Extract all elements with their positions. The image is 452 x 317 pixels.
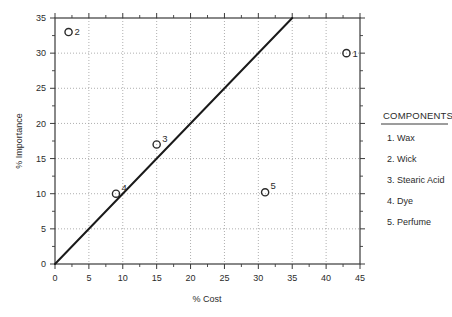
data-point-marker: [65, 28, 72, 35]
x-tick-label: 10: [118, 273, 128, 283]
data-point-label: 3: [162, 133, 167, 144]
plot-frame: [55, 18, 360, 264]
x-tick-label: 15: [152, 273, 162, 283]
legend: COMPONENTS 1. Wax2. Wick3. Stearic Acid4…: [381, 110, 452, 227]
plot-area-border: [55, 18, 360, 264]
data-point-marker: [262, 189, 269, 196]
data-point-label: 4: [122, 182, 127, 193]
scatter-chart-figure: 051015202530354045 05101520253035 12345 …: [0, 0, 452, 317]
y-tick-label: 5: [41, 224, 46, 234]
x-tick-label: 30: [253, 273, 263, 283]
x-tick-label: 25: [219, 273, 229, 283]
y-tick-label: 0: [41, 259, 46, 269]
data-point-label: 5: [271, 180, 276, 191]
reference-line: [55, 18, 292, 264]
diagonal-parity-line: [55, 18, 292, 264]
x-tick-label: 0: [52, 273, 57, 283]
data-point: 5: [262, 180, 276, 196]
legend-entries: 1. Wax2. Wick3. Stearic Acid4. Dye5. Per…: [387, 133, 445, 227]
legend-entry: 1. Wax: [387, 133, 415, 143]
chart-page: 051015202530354045 05101520253035 12345 …: [0, 0, 452, 317]
y-tick-label: 25: [36, 83, 46, 93]
y-tick-label: 10: [36, 189, 46, 199]
x-axis-title: % Cost: [192, 294, 222, 304]
legend-entry: 3. Stearic Acid: [387, 175, 445, 185]
legend-entry: 4. Dye: [387, 196, 413, 206]
y-tick-label: 20: [36, 119, 46, 129]
y-axis-tick-labels: 05101520253035: [36, 13, 46, 269]
data-point-label: 2: [75, 26, 80, 37]
axis-ticks: [50, 13, 365, 269]
legend-entry: 5. Perfume: [387, 217, 431, 227]
legend-title: COMPONENTS: [383, 110, 452, 121]
y-tick-label: 15: [36, 154, 46, 164]
x-axis-tick-labels: 051015202530354045: [52, 273, 365, 283]
data-point-label: 1: [352, 48, 357, 59]
grid-lines: [55, 18, 360, 264]
x-tick-label: 40: [321, 273, 331, 283]
y-tick-label: 30: [36, 48, 46, 58]
chart-svg: 051015202530354045 05101520253035 12345 …: [0, 0, 452, 317]
data-point: 1: [343, 48, 358, 59]
x-tick-label: 20: [186, 273, 196, 283]
legend-entry: 2. Wick: [387, 154, 417, 164]
data-point: 4: [112, 182, 126, 198]
x-tick-label: 35: [287, 273, 297, 283]
data-point: 2: [65, 26, 80, 37]
y-axis-title: % Importance: [14, 113, 24, 169]
data-point: 3: [153, 133, 167, 149]
y-tick-label: 35: [36, 13, 46, 23]
x-tick-label: 45: [355, 273, 365, 283]
x-tick-label: 5: [86, 273, 91, 283]
data-points: 12345: [65, 26, 358, 197]
